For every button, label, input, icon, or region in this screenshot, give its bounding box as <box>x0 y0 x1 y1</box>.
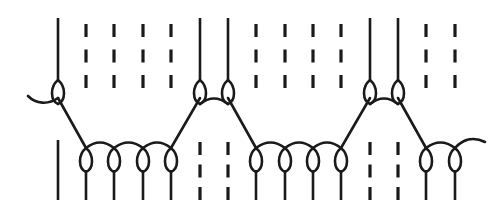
stitch-diagram-canvas <box>0 0 499 221</box>
figure-background <box>0 0 499 221</box>
stitch-diagram-figure <box>0 0 499 221</box>
